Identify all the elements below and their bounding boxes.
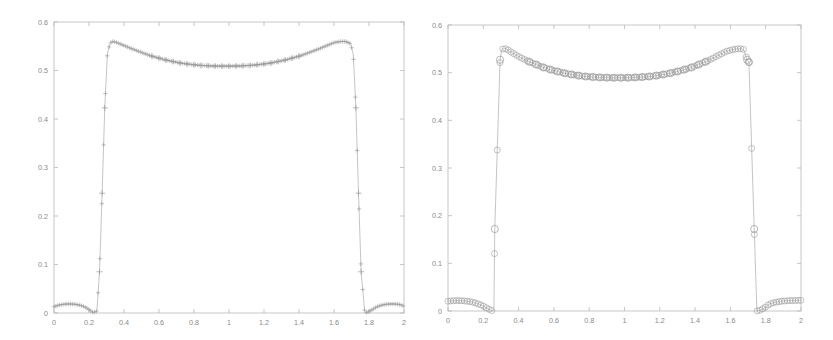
x-tick-label: 1.6 <box>725 316 735 325</box>
x-tick-label: 1.4 <box>690 316 700 325</box>
y-tick-label: 0.2 <box>432 211 442 220</box>
y-tick-label: 0.6 <box>432 21 442 30</box>
y-tick-label: 0.2 <box>38 212 48 221</box>
x-tick-label: 2 <box>402 318 406 327</box>
y-tick-label: 0.5 <box>432 68 442 77</box>
axis-ticks: 00.20.40.60.811.21.41.61.8200.10.20.30.4… <box>432 21 803 325</box>
x-tick-label: 0.6 <box>154 318 164 327</box>
x-tick-label: 1.8 <box>761 316 771 325</box>
x-tick-label: 1.2 <box>259 318 269 327</box>
data-series <box>52 39 406 315</box>
y-tick-label: 0.1 <box>38 260 48 269</box>
x-tick-label: 1 <box>623 316 627 325</box>
plot-svg: 00.20.40.60.811.21.41.61.8200.10.20.30.4… <box>0 0 416 340</box>
x-tick-label: 0.8 <box>189 318 199 327</box>
plot-svg: 00.20.40.60.811.21.41.61.8200.10.20.30.4… <box>417 0 833 340</box>
x-tick-label: 0 <box>52 318 56 327</box>
x-tick-label: 1.2 <box>655 316 665 325</box>
chart-panel-right: 00.20.40.60.811.21.41.61.8200.10.20.30.4… <box>417 0 833 340</box>
series-node-markers <box>97 53 365 275</box>
x-tick-label: 0.2 <box>478 316 488 325</box>
x-tick-label: 0 <box>446 316 450 325</box>
x-tick-label: 2 <box>799 316 803 325</box>
series-line <box>54 41 404 312</box>
x-tick-label: 0.4 <box>514 316 524 325</box>
figure-canvas: 00.20.40.60.811.21.41.61.8200.10.20.30.4… <box>0 0 833 340</box>
y-tick-label: 0.3 <box>432 164 442 173</box>
y-tick-label: 0.4 <box>38 115 48 124</box>
x-tick-label: 0.2 <box>84 318 94 327</box>
y-tick-label: 0 <box>44 309 48 318</box>
x-tick-label: 1.4 <box>294 318 304 327</box>
x-tick-label: 1.8 <box>364 318 374 327</box>
y-tick-label: 0.1 <box>432 259 442 268</box>
series-markers <box>445 46 804 314</box>
chart-panel-left: 00.20.40.60.811.21.41.61.8200.10.20.30.4… <box>0 0 416 340</box>
y-tick-label: 0.3 <box>38 163 48 172</box>
y-tick-label: 0 <box>438 307 442 316</box>
x-tick-label: 1 <box>227 318 231 327</box>
series-line <box>448 48 801 311</box>
data-series <box>445 46 804 314</box>
y-tick-label: 0.5 <box>38 66 48 75</box>
x-tick-label: 1.6 <box>329 318 339 327</box>
x-tick-label: 0.4 <box>119 318 129 327</box>
axes-frame <box>448 25 801 311</box>
y-tick-label: 0.6 <box>38 18 48 27</box>
x-tick-label: 0.6 <box>549 316 559 325</box>
series-node-markers <box>491 56 758 232</box>
y-tick-label: 0.4 <box>432 116 442 125</box>
x-tick-label: 0.8 <box>584 316 594 325</box>
series-markers <box>52 39 406 315</box>
